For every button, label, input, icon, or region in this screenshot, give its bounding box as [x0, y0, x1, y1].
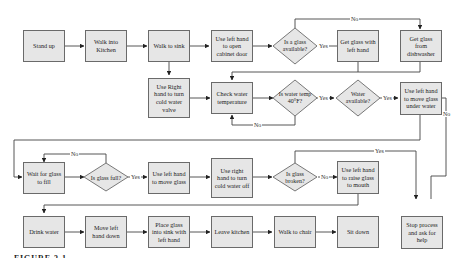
edge-label-full-yes: Yes	[130, 174, 141, 180]
step-label: Use left hand to move glass	[151, 170, 187, 185]
step-turn-water-off: Use right hand to turn cold water off	[211, 158, 253, 198]
decision-water-available: Water available?	[341, 90, 375, 106]
edge-label-glass-yes: Yes	[318, 43, 329, 49]
step-check-water-temp: Check water temperature	[211, 82, 253, 114]
step-move-glass: Use left hand to move glass	[148, 162, 190, 194]
decision-label: Is glass broken?	[279, 171, 311, 185]
step-walk-to-chair: Walk to chair	[274, 216, 316, 248]
edge-label-temp-no: No	[253, 122, 262, 128]
decision-label: Is a glass available?	[278, 39, 312, 53]
edge-label-broken-yes: Yes	[374, 148, 385, 154]
step-label: Leave kitchen	[215, 228, 250, 236]
step-label: Use right hand to turn cold water off	[214, 167, 250, 190]
step-label: Stand up	[33, 42, 55, 50]
decision-label: Is glass full?	[91, 175, 121, 182]
step-label: Use left hand to move glass under water	[403, 87, 439, 110]
step-drink-water: Drink water	[23, 216, 65, 248]
decision-glass-full: Is glass full?	[90, 170, 122, 186]
step-label: Stop process and ask for help	[404, 221, 440, 244]
step-label: Wait for glass to fill	[26, 170, 62, 185]
step-open-cabinet: Use left hand to open cabinet door	[211, 30, 253, 62]
step-label: Get glass from dishwasher	[403, 35, 439, 58]
step-stand-up: Stand up	[23, 30, 65, 62]
step-label: Walk to chair	[278, 228, 311, 236]
step-move-hand-down: Move left hand down	[85, 216, 127, 248]
step-label: Sit down	[347, 228, 369, 236]
step-raise-glass: Use left hand to raise glass to mouth	[337, 161, 379, 194]
decision-label: Water available?	[341, 91, 375, 105]
step-label: Drink water	[29, 228, 59, 236]
step-label: Walk to sink	[153, 42, 184, 50]
figure-caption: FIGURE 3.1	[14, 252, 67, 258]
decision-label: Is water temp 40°F?	[278, 91, 312, 105]
step-walk-to-sink: Walk to sink	[148, 30, 190, 62]
edge-label-glass-no: No	[350, 16, 359, 22]
decision-water-temp: Is water temp 40°F?	[278, 90, 312, 106]
edge-label-water-no: No	[442, 111, 451, 117]
edge-label-temp-yes: Yes	[318, 95, 329, 101]
step-label: Move left hand down	[88, 224, 124, 239]
step-wait-for-fill: Wait for glass to fill	[23, 162, 65, 194]
step-stop-and-ask-help: Stop process and ask for help	[401, 216, 443, 249]
step-label: Check water temperature	[214, 90, 250, 105]
step-walk-into-kitchen: Walk into Kitchen	[85, 30, 127, 62]
step-label: Get glass with left hand	[340, 38, 376, 53]
step-label: Use Right hand to turn cold water valve	[151, 83, 187, 113]
step-label: Use left hand to open cabinet door	[214, 35, 250, 58]
step-move-glass-under-water: Use left hand to move glass under water	[400, 82, 442, 115]
step-label: Walk into Kitchen	[88, 38, 124, 53]
step-place-glass: Place glass into sink with left hand	[148, 216, 190, 248]
step-get-glass-dishwasher: Get glass from dishwasher	[400, 30, 442, 62]
step-label: Use left hand to raise glass to mouth	[340, 166, 376, 189]
decision-glass-available: Is a glass available?	[278, 38, 312, 54]
step-label: Place glass into sink with left hand	[151, 221, 187, 244]
edge-label-water-yes: Yes	[382, 95, 393, 101]
step-get-glass-left-hand: Get glass with left hand	[337, 30, 379, 62]
decision-glass-broken: Is glass broken?	[279, 170, 311, 186]
step-turn-cold-valve: Use Right hand to turn cold water valve	[148, 78, 190, 118]
step-leave-kitchen: Leave kitchen	[211, 216, 253, 248]
edge-label-full-no: No	[70, 151, 79, 157]
edge-label-broken-no: No	[320, 174, 329, 180]
step-sit-down: Sit down	[337, 216, 379, 248]
